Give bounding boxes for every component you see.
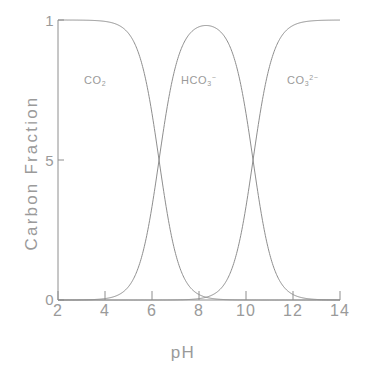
- curve-hco3: [58, 25, 340, 300]
- chart-figure: Carbon Fraction 1 5 0 2 4 6 8 10 12 14 p…: [0, 0, 366, 375]
- curve-co2: [58, 20, 340, 300]
- data-curves: [58, 20, 340, 300]
- y-axis-tick-marks: [58, 20, 64, 300]
- plot-area: [0, 0, 366, 375]
- curve-co3: [58, 20, 340, 300]
- axis-lines: [58, 20, 340, 300]
